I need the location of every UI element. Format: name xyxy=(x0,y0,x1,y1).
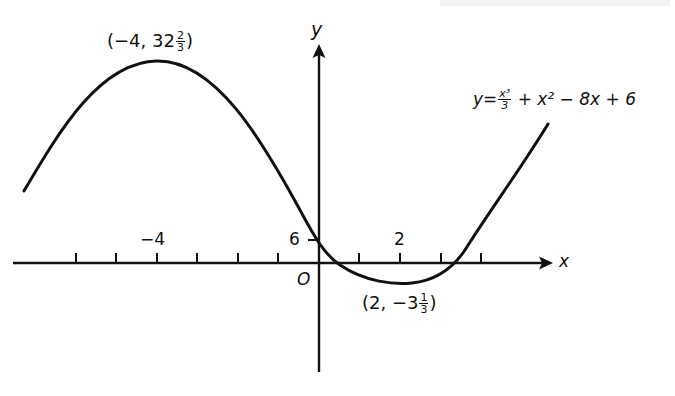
origin-label: O xyxy=(297,271,310,288)
x-axis-label: x xyxy=(559,253,569,270)
equation-label: y=x³3 + x² − 8x + 6 xyxy=(473,88,636,111)
faint-top-strip xyxy=(440,0,670,6)
x-tick-label-2: 2 xyxy=(394,231,405,248)
y-tick-label-6: 6 xyxy=(289,231,300,248)
local-max-annotation: (−4, 3223) xyxy=(107,30,193,53)
cubic-function-graph xyxy=(0,0,675,396)
local-min-annotation: (2, −313) xyxy=(362,292,436,315)
y-axis-label: y xyxy=(311,20,322,39)
equation-fraction: x³3 xyxy=(498,88,511,111)
local-min-fraction: 13 xyxy=(419,292,428,315)
local-max-fraction: 23 xyxy=(176,30,185,53)
y-axis xyxy=(313,44,326,372)
cubic-curve xyxy=(24,61,548,284)
x-tick-label-neg4: −4 xyxy=(140,231,165,248)
x-ticks xyxy=(76,253,481,263)
local-min-text: (2, −3 xyxy=(362,292,418,313)
x-axis xyxy=(13,257,553,270)
local-max-text: (−4, 32 xyxy=(107,30,175,51)
